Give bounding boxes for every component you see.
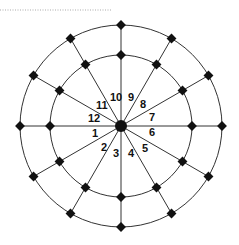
spoke-label: 9 [128,91,134,103]
diamond-node [204,71,214,81]
diamond-node [15,121,25,131]
spoke-label: 8 [140,98,146,110]
spoke [34,76,121,127]
diamond-node [116,192,126,202]
diamond-node [45,121,55,131]
diamond-node [66,209,76,219]
spoke-label: 7 [149,111,155,123]
center-node [115,120,127,132]
diamond-node [29,71,39,81]
diamond-node [204,172,214,182]
diamond-node [116,20,126,30]
radial-diagram: 123456789101112 [0,0,239,245]
spoke [121,126,172,213]
diamond-node [81,183,91,193]
spoke-label: 11 [96,99,108,111]
diamond-node [152,60,162,70]
diamond-node [116,50,126,60]
diamond-node [66,34,76,44]
spoke-label: 2 [101,141,107,153]
diamond-node [167,209,177,219]
diamond-node [152,183,162,193]
spoke-label: 12 [88,112,100,124]
diamond-node [167,34,177,44]
spoke-label: 5 [142,142,148,154]
diamond-node [29,172,39,182]
spoke-label: 1 [92,127,98,139]
diamond-node [178,157,188,167]
diamond-node [81,60,91,70]
diamond-node [178,86,188,96]
spoke-label: 4 [128,147,135,159]
spoke [34,126,121,177]
spoke [71,126,122,213]
spoke-label: 6 [149,126,155,138]
spoke-label: 3 [113,147,119,159]
diamond-node [55,86,65,96]
spoke-label: 10 [110,91,122,103]
diamond-node [55,157,65,167]
diamond-node [116,222,126,232]
spoke [121,39,172,126]
diamond-node [217,121,227,131]
diamond-node [187,121,197,131]
